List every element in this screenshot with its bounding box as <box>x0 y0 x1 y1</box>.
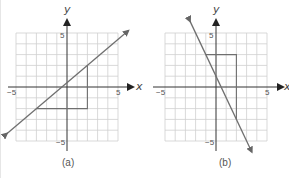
x-tick-max-b: 5 <box>265 88 269 97</box>
graph-line <box>190 21 252 152</box>
x-tick-min-a: −5 <box>7 88 16 97</box>
graph-line <box>7 31 128 134</box>
y-tick-min-a: −5 <box>56 138 65 147</box>
panel-a <box>7 20 133 151</box>
y-axis-label-a: y <box>64 3 71 16</box>
y-tick-min-b: −5 <box>205 138 214 147</box>
x-tick-max-a: 5 <box>116 88 120 97</box>
panel-label-b: (b) <box>219 157 231 168</box>
panel-label-a: (a) <box>62 157 74 168</box>
x-axis-label-a: x <box>136 80 143 93</box>
x-axis-label-b: x <box>284 80 289 93</box>
y-tick-max-a: 5 <box>60 31 64 40</box>
y-axis-label-b: y <box>213 3 220 16</box>
y-tick-max-b: 5 <box>209 31 213 40</box>
x-tick-min-b: −5 <box>156 88 165 97</box>
graphs-svg <box>0 0 289 178</box>
panel-b <box>153 20 283 152</box>
